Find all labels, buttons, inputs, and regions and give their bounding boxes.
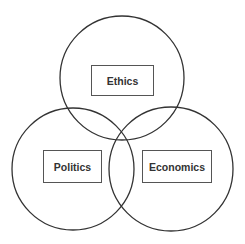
politics-label: Politics [54,161,91,173]
economics-label-box: Economics [142,150,212,183]
ethics-label-box: Ethics [91,65,154,96]
venn-circles [0,0,245,244]
venn-diagram: Ethics Politics Economics [0,0,245,244]
economics-label: Economics [149,161,205,173]
politics-label-box: Politics [43,150,102,183]
ethics-label: Ethics [107,75,139,87]
